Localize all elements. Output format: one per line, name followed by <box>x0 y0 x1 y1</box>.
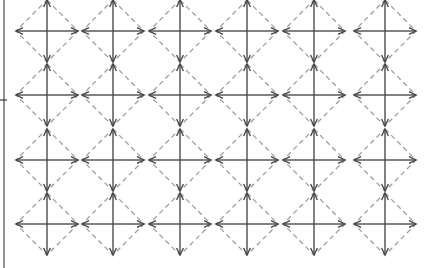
arrow-up <box>44 129 51 160</box>
arrow-left <box>16 157 47 164</box>
diamond-arrow-cell <box>216 193 278 255</box>
arrow-up <box>110 64 117 95</box>
arrow-left <box>354 221 385 228</box>
arrow-left <box>149 221 180 228</box>
arrow-up <box>44 0 51 31</box>
diamond-arrow-cell <box>354 0 416 62</box>
arrow-right <box>314 28 345 35</box>
arrow-down <box>382 224 389 255</box>
arrow-right <box>47 28 78 35</box>
diamond-arrow-cell <box>354 64 416 126</box>
arrow-down <box>44 95 51 126</box>
diamond-arrow-cell <box>283 129 345 191</box>
arrow-up <box>44 64 51 95</box>
arrow-down <box>382 31 389 62</box>
arrow-up <box>244 0 251 31</box>
arrow-left <box>149 157 180 164</box>
arrow-up <box>382 0 389 31</box>
arrow-right <box>385 28 416 35</box>
arrow-down <box>311 224 318 255</box>
arrow-left <box>82 28 113 35</box>
arrow-right <box>385 92 416 99</box>
arrow-right <box>47 157 78 164</box>
arrow-down <box>177 31 184 62</box>
arrow-left <box>216 28 247 35</box>
arrow-up <box>311 193 318 224</box>
diamond-arrow-cell <box>82 129 144 191</box>
arrow-left <box>149 28 180 35</box>
arrow-left <box>16 92 47 99</box>
arrow-right <box>314 157 345 164</box>
arrow-right <box>113 92 144 99</box>
diamond-arrow-cell <box>354 129 416 191</box>
arrow-left <box>216 157 247 164</box>
arrow-right <box>247 157 278 164</box>
arrow-right <box>314 92 345 99</box>
diagram-canvas <box>0 0 424 268</box>
arrow-up <box>177 129 184 160</box>
arrow-right <box>180 157 211 164</box>
arrow-up <box>244 193 251 224</box>
arrow-up <box>44 193 51 224</box>
arrow-down <box>244 31 251 62</box>
arrow-right <box>113 221 144 228</box>
arrow-up <box>311 129 318 160</box>
arrow-down <box>382 95 389 126</box>
diamond-arrow-cell <box>16 64 78 126</box>
figure-root <box>0 0 424 268</box>
arrow-left <box>149 92 180 99</box>
diamond-arrow-cell <box>149 0 211 62</box>
diamond-arrow-cell <box>16 0 78 62</box>
arrow-right <box>180 28 211 35</box>
arrow-down <box>44 31 51 62</box>
diamond-arrow-cell <box>149 129 211 191</box>
diamond-arrow-cell <box>216 0 278 62</box>
arrow-left <box>283 221 314 228</box>
arrow-right <box>247 92 278 99</box>
arrow-down <box>311 160 318 191</box>
arrow-up <box>311 64 318 95</box>
arrow-right <box>113 157 144 164</box>
arrow-down <box>244 160 251 191</box>
arrow-left <box>216 92 247 99</box>
diamond-arrow-cell <box>82 64 144 126</box>
arrow-up <box>110 193 117 224</box>
arrow-left <box>216 221 247 228</box>
diamond-arrow-cell <box>82 0 144 62</box>
arrow-right <box>180 92 211 99</box>
diamond-arrow-cell <box>283 64 345 126</box>
diamond-arrow-cell <box>149 64 211 126</box>
arrow-up <box>382 193 389 224</box>
arrow-down <box>110 224 117 255</box>
left-vertical-axis <box>0 0 7 268</box>
arrow-left <box>16 221 47 228</box>
arrow-down <box>244 224 251 255</box>
arrow-left <box>354 157 385 164</box>
arrow-left <box>82 92 113 99</box>
arrow-up <box>244 64 251 95</box>
diamond-arrow-cell <box>149 193 211 255</box>
arrow-down <box>110 31 117 62</box>
arrow-down <box>311 31 318 62</box>
arrow-up <box>311 0 318 31</box>
arrow-up <box>177 64 184 95</box>
arrow-left <box>283 157 314 164</box>
arrow-down <box>110 160 117 191</box>
arrow-left <box>354 92 385 99</box>
diamond-arrow-cell <box>82 193 144 255</box>
arrow-down <box>244 95 251 126</box>
diamond-arrow-cell <box>216 129 278 191</box>
arrow-left <box>354 28 385 35</box>
diamond-arrow-cell <box>216 64 278 126</box>
arrow-right <box>314 221 345 228</box>
arrow-right <box>385 157 416 164</box>
arrow-up <box>177 193 184 224</box>
arrow-left <box>283 92 314 99</box>
arrow-up <box>382 64 389 95</box>
arrow-left <box>82 221 113 228</box>
diamond-arrow-cell <box>16 129 78 191</box>
arrow-down <box>311 95 318 126</box>
arrow-left <box>82 157 113 164</box>
arrow-down <box>177 224 184 255</box>
arrow-right <box>385 221 416 228</box>
